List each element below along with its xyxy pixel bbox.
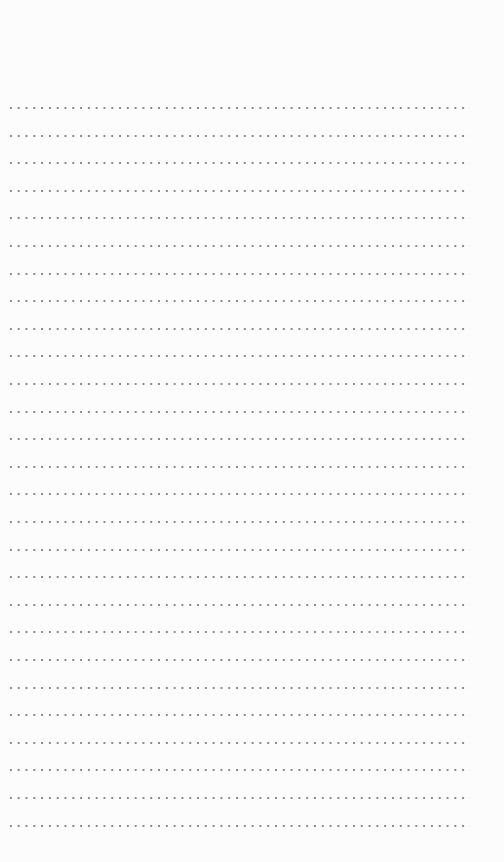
dotted-rule-line xyxy=(7,797,470,799)
dotted-rule-line xyxy=(7,576,470,578)
dotted-rule-line xyxy=(7,631,470,633)
dotted-rule-line xyxy=(7,687,470,689)
dotted-rule-line xyxy=(7,493,470,495)
dotted-rule-line xyxy=(7,355,470,357)
dotted-rule-line xyxy=(7,466,470,468)
dotted-rule-line xyxy=(7,328,470,330)
dotted-rule-line xyxy=(7,438,470,440)
dotted-rule-line xyxy=(7,825,470,827)
dotted-rule-line xyxy=(7,190,470,192)
dotted-rule-line xyxy=(7,549,470,551)
dotted-rule-line xyxy=(7,273,470,275)
dotted-rule-line xyxy=(7,769,470,771)
dotted-rule-line xyxy=(7,383,470,385)
dotted-rule-line xyxy=(7,300,470,302)
dotted-rule-line xyxy=(7,521,470,523)
dotted-rule-line xyxy=(7,604,470,606)
dotted-rule-line xyxy=(7,714,470,716)
dotted-rule-line xyxy=(7,245,470,247)
dotted-ruled-page xyxy=(0,0,504,862)
dotted-rule-line xyxy=(7,217,470,219)
dotted-rule-line xyxy=(7,107,470,109)
dotted-rule-line xyxy=(7,162,470,164)
dotted-rule-line xyxy=(7,411,470,413)
dotted-rule-line xyxy=(7,135,470,137)
dotted-rule-line xyxy=(7,659,470,661)
dotted-rule-line xyxy=(7,742,470,744)
